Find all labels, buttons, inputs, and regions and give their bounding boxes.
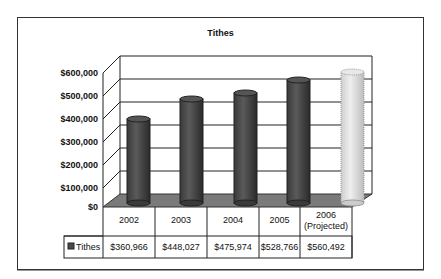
- category-2005: 2005: [259, 215, 300, 225]
- svg-text:$0: $0: [88, 202, 98, 212]
- bar-2002: [127, 116, 150, 206]
- bar-2003: [180, 96, 203, 206]
- value-2005: $528,766: [259, 242, 300, 252]
- svg-text:$400,000: $400,000: [60, 114, 98, 124]
- svg-text:$600,000: $600,000: [60, 68, 98, 78]
- category-2004: 2004: [207, 215, 259, 225]
- category-2003: 2003: [155, 215, 207, 225]
- svg-text:$500,000: $500,000: [60, 91, 98, 101]
- value-2006: $560,492: [300, 242, 352, 252]
- svg-text:$200,000: $200,000: [60, 160, 98, 170]
- y-axis: $600,000 $500,000 $400,000 $300,000 $200…: [60, 68, 98, 212]
- bar-2006-projected: [341, 69, 364, 206]
- value-2004: $475,974: [207, 242, 259, 252]
- svg-text:$300,000: $300,000: [60, 137, 98, 147]
- legend-label-tithes: Tithes: [76, 242, 100, 252]
- value-2003: $448,027: [155, 242, 207, 252]
- bar-2004: [234, 90, 257, 206]
- category-2006-year: 2006: [300, 210, 352, 220]
- bar-2005: [287, 77, 310, 206]
- value-2002: $360,966: [103, 242, 155, 252]
- category-2002: 2002: [103, 215, 155, 225]
- category-2006-note: (Projected): [300, 221, 352, 231]
- svg-text:$100,000: $100,000: [60, 183, 98, 193]
- chart-plot: $600,000 $500,000 $400,000 $300,000 $200…: [0, 0, 441, 279]
